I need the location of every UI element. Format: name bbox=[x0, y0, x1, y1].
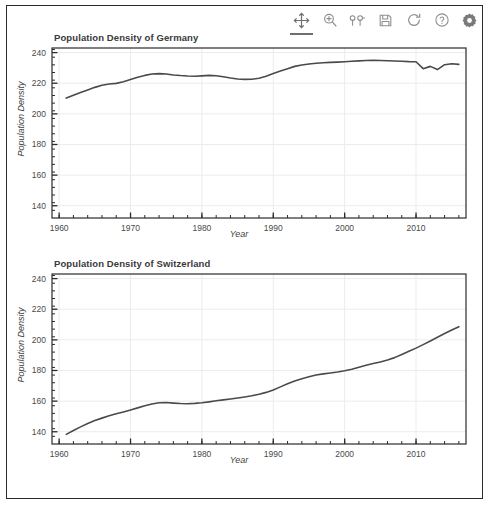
chart-germany[interactable]: Population Density of Germany Population… bbox=[8, 26, 470, 248]
svg-text:160: 160 bbox=[32, 170, 46, 180]
svg-text:1980: 1980 bbox=[192, 223, 211, 233]
svg-text:1970: 1970 bbox=[121, 223, 140, 233]
svg-text:140: 140 bbox=[32, 427, 46, 437]
svg-text:180: 180 bbox=[32, 365, 46, 375]
svg-text:200: 200 bbox=[32, 109, 46, 119]
svg-text:140: 140 bbox=[32, 201, 46, 211]
svg-text:220: 220 bbox=[32, 78, 46, 88]
svg-text:240: 240 bbox=[32, 48, 46, 58]
svg-text:2010: 2010 bbox=[407, 449, 426, 459]
svg-text:160: 160 bbox=[32, 396, 46, 406]
plot-area-germany: 1401601802002202401960197019801990200020… bbox=[8, 26, 470, 248]
svg-text:240: 240 bbox=[32, 274, 46, 284]
svg-text:1970: 1970 bbox=[121, 449, 140, 459]
svg-text:200: 200 bbox=[32, 335, 46, 345]
svg-text:2000: 2000 bbox=[335, 449, 354, 459]
svg-text:1990: 1990 bbox=[264, 449, 283, 459]
plot-area-switzerland: 1401601802002202401960197019801990200020… bbox=[8, 252, 470, 474]
svg-text:1990: 1990 bbox=[264, 223, 283, 233]
svg-text:1960: 1960 bbox=[50, 223, 69, 233]
svg-text:2010: 2010 bbox=[407, 223, 426, 233]
svg-text:180: 180 bbox=[32, 139, 46, 149]
chart-switzerland[interactable]: Population Density of Switzerland Popula… bbox=[8, 252, 470, 474]
svg-text:1960: 1960 bbox=[50, 449, 69, 459]
svg-text:220: 220 bbox=[32, 304, 46, 314]
svg-text:2000: 2000 bbox=[335, 223, 354, 233]
svg-text:1980: 1980 bbox=[192, 449, 211, 459]
figure-window: Population Density of Germany Population… bbox=[0, 0, 489, 505]
